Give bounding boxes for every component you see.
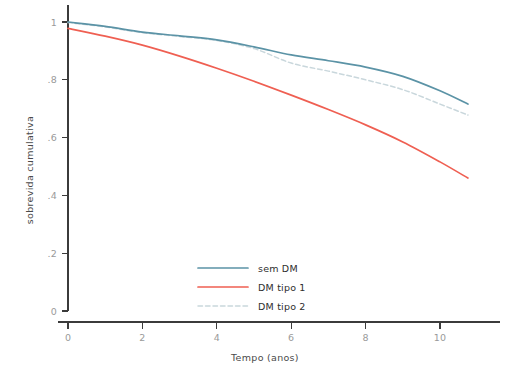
x-tick-label: 6 [288, 332, 294, 343]
y-axis-title: sobrevida cumulativa [24, 116, 35, 224]
y-tick-label: .2 [48, 248, 57, 259]
axis-titles: Tempo (anos) sobrevida cumulativa [24, 116, 299, 363]
curve-dm-tipo-1 [68, 28, 468, 178]
x-axis-title: Tempo (anos) [230, 352, 299, 363]
y-tick-label: 1 [51, 17, 57, 28]
legend-label-3: DM tipo 2 [258, 301, 306, 312]
survival-curve-figure: 0.2.4.6.810246810 sem DMDM tipo 1DM tipo… [0, 0, 513, 381]
x-tick-label: 10 [434, 332, 447, 343]
legend-label-2: DM tipo 1 [258, 282, 306, 293]
y-tick-label: .6 [48, 132, 57, 143]
curve-dm-tipo-2 [68, 23, 468, 115]
x-tick-label: 8 [362, 332, 368, 343]
y-tick-label: .4 [48, 190, 57, 201]
x-tick-label: 0 [65, 332, 71, 343]
legend-label-1: sem DM [258, 263, 298, 274]
y-tick-label: .8 [48, 74, 57, 85]
x-tick-label: 4 [214, 332, 220, 343]
chart-canvas: 0.2.4.6.810246810 sem DMDM tipo 1DM tipo… [0, 0, 513, 381]
y-tick-label: 0 [51, 306, 57, 317]
x-tick-label: 2 [139, 332, 145, 343]
chart-legend: sem DMDM tipo 1DM tipo 2 [198, 263, 306, 312]
curve-series [68, 22, 468, 178]
